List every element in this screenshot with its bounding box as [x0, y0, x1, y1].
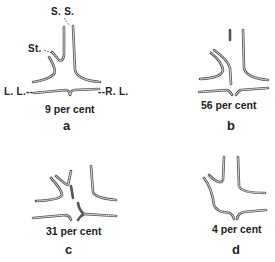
panel-c-letter: c — [65, 242, 72, 257]
panel-b-drawing — [199, 30, 268, 95]
panel-a-letter: a — [63, 118, 70, 133]
label-straight-sinus: St. — [28, 43, 42, 54]
panel-d-letter: d — [232, 242, 240, 257]
panel-d-caption: 4 per cent — [212, 223, 262, 235]
panel-a-caption: 9 per cent — [45, 103, 95, 115]
panel-d-drawing — [204, 157, 266, 219]
panel-c-caption: 31 per cent — [46, 225, 101, 237]
panel-b-letter: b — [227, 118, 235, 133]
panel-a-drawing — [33, 18, 100, 95]
panel-c-drawing — [33, 166, 116, 220]
label-right-lateral-sinus: --R. L. — [98, 86, 128, 97]
label-left-lateral-sinus: L. L.-- — [4, 86, 33, 97]
panel-a-ss-left-wall — [52, 27, 64, 60]
panel-b-caption: 56 per cent — [201, 99, 256, 111]
label-superior-sagittal-sinus: S. S. — [51, 6, 74, 17]
